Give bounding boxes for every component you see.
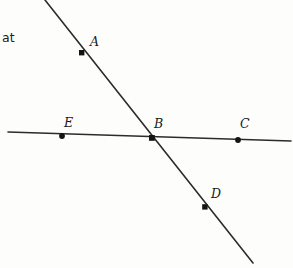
diagonal-line [45,0,253,263]
point-label-b: B [154,118,163,131]
point-label-a: A [90,36,99,49]
point-label-c: C [240,118,250,131]
geometry-figure: at A B C D E [0,0,293,268]
point-marker-E [59,133,65,139]
cropped-edge-text: at [2,32,15,45]
point-marker-A [79,50,84,55]
point-label-e: E [64,117,73,130]
point-marker-B [149,135,155,141]
point-marker-C [235,137,241,143]
point-marker-D [202,204,207,209]
point-label-d: D [211,188,221,201]
geometry-canvas [0,0,293,268]
